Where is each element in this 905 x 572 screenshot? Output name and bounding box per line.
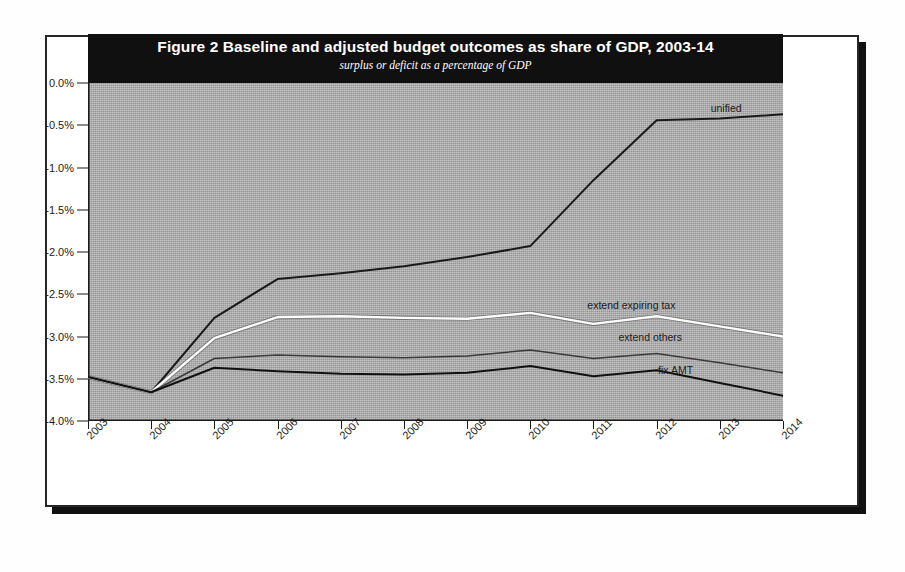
y-axis-tick-mark [77, 252, 88, 253]
y-axis: 0.0%-0.5%-1.0%-1.5%-2.0%-2.5%-3.0%-3.5%-… [0, 83, 88, 421]
y-axis-tick-mark [77, 421, 88, 422]
y-axis-tick-label: 0.0% [49, 77, 74, 89]
scanned-page-background: Figure 2 Baseline and adjusted budget ou… [0, 0, 905, 572]
chart-subtitle: surplus or deficit as a percentage of GD… [88, 58, 783, 73]
y-axis-tick-mark [77, 167, 88, 168]
y-axis-tick-mark [77, 125, 88, 126]
y-axis-tick-mark [77, 83, 88, 84]
series-label-fix-amt: fix AMT [658, 364, 693, 376]
series-line-halo [88, 313, 783, 392]
x-axis: 2003200420052006200720082009201020112012… [88, 421, 783, 516]
y-axis-tick-label: -0.5% [45, 119, 74, 131]
y-axis-tick-mark [77, 209, 88, 210]
y-axis-tick-label: -4.0% [45, 415, 74, 427]
y-axis-tick-mark [77, 336, 88, 337]
y-axis-tick-label: -2.0% [45, 246, 74, 258]
y-axis-tick-mark [77, 294, 88, 295]
y-axis-tick-label: -3.5% [45, 373, 74, 385]
y-axis-tick-mark [77, 378, 88, 379]
y-axis-tick-label: -1.0% [45, 162, 74, 174]
series-label-unified: unified [711, 102, 742, 114]
series-line-extend-expiring-tax [88, 313, 783, 392]
y-axis-tick-label: -2.5% [45, 288, 74, 300]
plot-area: unifiedextend expiring taxextend othersf… [88, 83, 783, 421]
chart-title: Figure 2 Baseline and adjusted budget ou… [88, 38, 783, 56]
series-line-unified [88, 114, 783, 392]
chart-title-banner: Figure 2 Baseline and adjusted budget ou… [88, 34, 783, 83]
series-label-extend-expiring-tax: extend expiring tax [587, 299, 675, 311]
y-axis-tick-label: -1.5% [45, 204, 74, 216]
series-label-extend-others: extend others [618, 331, 682, 343]
y-axis-tick-label: -3.0% [45, 331, 74, 343]
